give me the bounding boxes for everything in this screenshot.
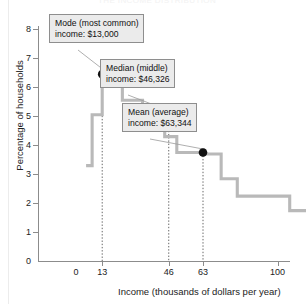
marker-mean <box>199 148 208 157</box>
plot-area <box>0 0 306 304</box>
callout-mode-line1: Mode (most common) <box>55 18 139 29</box>
callout-mean-line1: Mean (average) <box>128 107 192 118</box>
callout-mode: Mode (most common) income: $13,000 <box>49 14 144 43</box>
callout-median-line2: income: $46,326 <box>106 74 170 85</box>
callout-median-line1: Median (middle) <box>106 63 170 74</box>
callout-mode-line2: income: $13,000 <box>55 29 139 40</box>
income-step-curve <box>86 74 306 248</box>
callout-mean: Mean (average) income: $63,344 <box>122 103 197 132</box>
callout-mean-line2: income: $63,344 <box>128 118 192 129</box>
chart-figure: THE INCOME DISTRIBUTION Percentage of ho… <box>0 0 306 304</box>
callout-median: Median (middle) income: $46,326 <box>100 59 175 88</box>
